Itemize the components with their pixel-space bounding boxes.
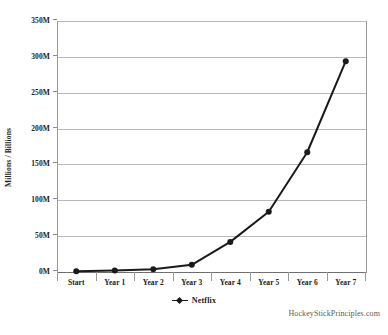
y-axis-tick-mark (53, 234, 57, 235)
y-axis-tick-label: 150M (6, 159, 50, 168)
y-axis-tick-mark (53, 127, 57, 128)
y-axis-tick-label: 0M (6, 267, 50, 276)
watermark-text: HockeyStickPrinciples.com (288, 309, 380, 318)
gridline (58, 21, 366, 22)
y-axis-tick-mark (53, 162, 57, 163)
x-axis-boundary (57, 272, 58, 281)
gridline (58, 236, 366, 237)
gridline (58, 200, 366, 201)
x-axis-separator (173, 272, 174, 281)
y-axis-tick-label: 300M (6, 52, 50, 61)
chart-legend: Netflix (0, 296, 388, 307)
y-axis-tick-label: 200M (6, 124, 50, 133)
y-axis-tick-label: 100M (6, 195, 50, 204)
legend-marker-icon (172, 297, 188, 305)
y-axis-tick-mark (53, 19, 57, 20)
y-axis-title: Millions / Billions (2, 32, 16, 283)
y-axis-tick-mark (53, 198, 57, 199)
x-axis-separator (288, 272, 289, 281)
x-axis-boundary (365, 272, 366, 281)
gridline (58, 272, 366, 273)
y-axis-tick-mark (53, 270, 57, 271)
y-axis-tick-mark (53, 55, 57, 56)
legend-item-netflix[interactable]: Netflix (172, 296, 217, 305)
line-chart: Millions / Billions 0M50M100M150M200M250… (0, 0, 388, 335)
gridline (58, 164, 366, 165)
y-axis-tick-label: 250M (6, 88, 50, 97)
gridline (58, 129, 366, 130)
plot-area (57, 21, 367, 273)
gridline (58, 57, 366, 58)
x-axis-tick-label: Year 7 (316, 278, 376, 287)
x-axis-separator (96, 272, 97, 281)
y-axis-tick-label: 350M (6, 16, 50, 25)
x-axis-separator (134, 272, 135, 281)
y-axis-tick-label: 50M (6, 231, 50, 240)
gridline (58, 93, 366, 94)
y-axis-tick-mark (53, 91, 57, 92)
legend-label-netflix: Netflix (192, 296, 217, 305)
x-axis-separator (250, 272, 251, 281)
x-axis-separator (327, 272, 328, 281)
x-axis-separator (211, 272, 212, 281)
